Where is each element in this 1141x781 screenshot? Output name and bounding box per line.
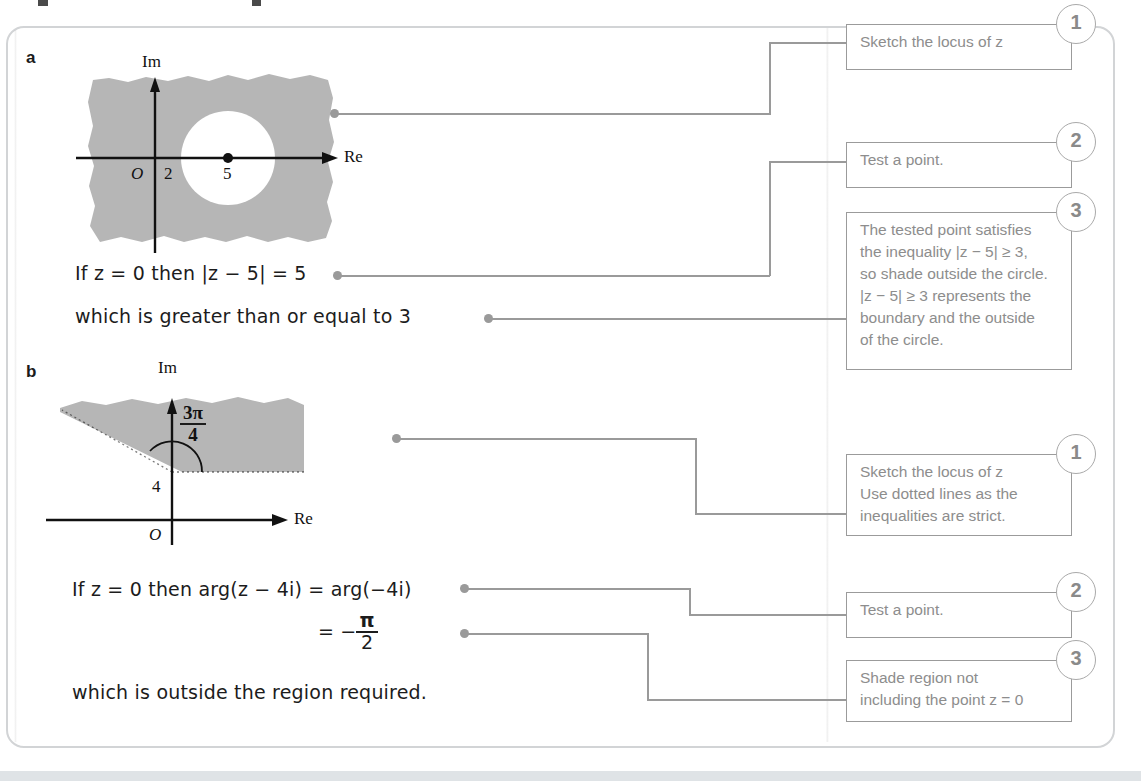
- callout-b-2-line-1: Test a point.: [860, 599, 1059, 621]
- callout-a-3-badge: 3: [1056, 192, 1096, 232]
- callout-b-3-badge: 3: [1056, 640, 1096, 680]
- angle-denominator: 4: [180, 423, 206, 445]
- argand-diagram-a: Im Re O 2 5: [76, 58, 366, 253]
- callout-a-3-line-2: the inequality |z − 5| ≥ 3,: [860, 241, 1059, 263]
- callout-a-3-line-6: of the circle.: [860, 329, 1059, 351]
- callout-a-3[interactable]: The tested point satisfies the inequalit…: [846, 212, 1072, 370]
- page-bottom-rule: [0, 771, 1141, 781]
- connector-a1-h2: [769, 42, 849, 44]
- callout-a-2-badge: 2: [1056, 122, 1096, 162]
- connector-b2-v: [689, 588, 691, 615]
- working-a-line-1: If z = 0 then |z − 5| = 5: [75, 262, 307, 284]
- connector-a2-h1: [341, 275, 770, 277]
- callout-a-3-line-4: |z − 5| ≥ 3 represents the: [860, 285, 1059, 307]
- callout-a-2-line-1: Test a point.: [860, 149, 1059, 171]
- callout-b-3[interactable]: Shade region not including the point z =…: [846, 660, 1072, 722]
- diagram-a-im-label: Im: [142, 52, 161, 72]
- callout-a-2[interactable]: Test a point.: [846, 142, 1072, 188]
- connector-b3-h2: [647, 699, 850, 701]
- callout-b-3-line-2: including the point z = 0: [860, 689, 1059, 711]
- connector-b3-v: [647, 633, 649, 700]
- callout-b-1-line-3: inequalities are strict.: [860, 505, 1059, 527]
- diagram-b-angle-label: 3π 4: [180, 404, 206, 446]
- diagram-a-re-label: Re: [344, 147, 363, 167]
- connector-b2-h1: [468, 588, 690, 590]
- working-b-line-3: which is outside the region required.: [72, 681, 427, 703]
- working-a-line-2: which is greater than or equal to 3: [75, 305, 411, 327]
- angle-numerator: 3π: [180, 403, 206, 423]
- working-b-equals: = −: [318, 620, 356, 642]
- argand-diagram-b: Im Re O 4 3π 4: [36, 360, 396, 545]
- callout-b-1-badge: 1: [1056, 434, 1096, 474]
- connector-a2-v: [769, 161, 771, 276]
- diagram-a-tick-2: 2: [164, 164, 173, 184]
- callout-b-1-line-1: Sketch the locus of z: [860, 461, 1059, 483]
- callout-a-1[interactable]: Sketch the locus of z: [846, 24, 1072, 70]
- callout-a-3-line-5: boundary and the outside: [860, 307, 1059, 329]
- callout-b-2[interactable]: Test a point.: [846, 592, 1072, 638]
- cropped-text-fragment-right: [252, 0, 261, 6]
- cropped-text-fragment-left: [38, 0, 48, 6]
- connector-a1-h1: [338, 113, 770, 115]
- connector-a1-v: [769, 42, 771, 115]
- connector-a2-h2: [769, 161, 849, 163]
- diagram-b-re-label: Re: [294, 509, 313, 529]
- diagram-a-tick-5: 5: [223, 164, 232, 184]
- argand-diagram-a-svg: [76, 58, 366, 253]
- working-b-pi: π: [356, 611, 377, 631]
- callout-b-3-line-1: Shade region not: [860, 667, 1059, 689]
- callout-b-2-badge: 2: [1056, 572, 1096, 612]
- working-b-line-1: If z = 0 then arg(z − 4i) = arg(−4i): [72, 578, 412, 600]
- part-label-a: a: [26, 48, 35, 68]
- connector-b1-h2: [695, 513, 850, 515]
- connector-b1-h1: [400, 438, 696, 440]
- callout-a-1-badge: 1: [1056, 4, 1096, 44]
- argand-diagram-b-svg: [36, 360, 396, 545]
- connector-b1-v: [695, 438, 697, 514]
- connector-a3-h1: [492, 318, 850, 320]
- part-label-b: b: [26, 362, 36, 382]
- diagram-b-im-label: Im: [158, 358, 177, 378]
- callout-a-3-line-1: The tested point satisfies: [860, 219, 1059, 241]
- diagram-b-point-label-4: 4: [152, 477, 161, 497]
- working-b-two: 2: [356, 631, 377, 653]
- connector-b2-h2: [689, 614, 850, 616]
- diagram-a-origin-label: O: [131, 164, 143, 184]
- connector-b3-h1: [468, 633, 648, 635]
- callout-b-1-line-2: Use dotted lines as the: [860, 483, 1059, 505]
- callout-b-1[interactable]: Sketch the locus of z Use dotted lines a…: [846, 454, 1072, 536]
- callout-a-3-line-3: so shade outside the circle.: [860, 263, 1059, 285]
- working-b-line-2: = − π 2: [318, 612, 378, 654]
- worked-example-page: a: [0, 0, 1141, 781]
- diagram-b-origin-label: O: [149, 525, 161, 545]
- callout-a-1-line-1: Sketch the locus of z: [860, 31, 1059, 53]
